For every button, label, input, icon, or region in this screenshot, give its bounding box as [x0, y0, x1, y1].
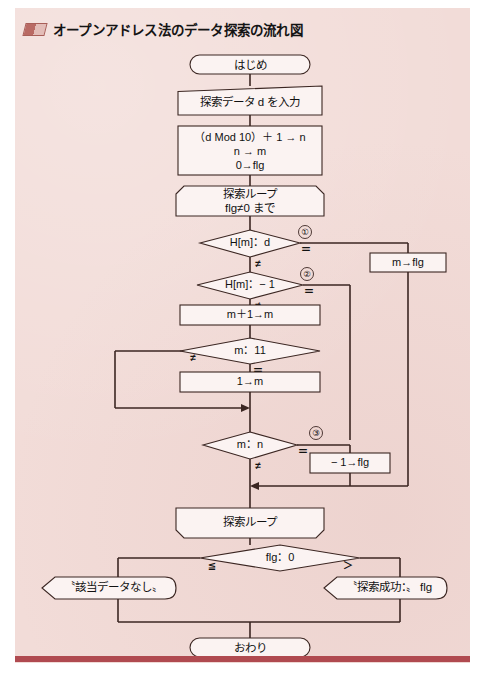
- title-block-icon: [22, 23, 47, 36]
- footer-accent-bar: [15, 656, 470, 662]
- node-set-m-flg-label: m→flg: [392, 256, 424, 268]
- node-cond5[interactable]: flg：0 ≦ ＞: [200, 545, 360, 571]
- node-reset-m[interactable]: 1→m: [180, 372, 320, 392]
- node-cond4[interactable]: m：n ＝ ≠ ③: [203, 427, 323, 471]
- node-cond1-marker: ①: [301, 227, 309, 237]
- node-out-ok[interactable]: 〝探索成功：〟 flg: [324, 577, 447, 599]
- node-set-m-flg[interactable]: m→flg: [370, 253, 446, 272]
- node-cond2-branch-right: ＝: [304, 286, 314, 297]
- node-init-line2: n → m: [234, 145, 266, 157]
- node-cond4-label: m：n: [237, 438, 263, 450]
- node-cond3-branch-left: ≠: [190, 352, 196, 363]
- node-end-label: おわり: [234, 642, 267, 654]
- node-set-neg-flg-label: − 1→flg: [331, 456, 369, 468]
- node-cond2-marker: ②: [303, 269, 311, 279]
- node-cond1-branch-right: ＝: [301, 244, 311, 255]
- node-cond1[interactable]: H[m]：d ＝ ≠ ①: [200, 226, 312, 269]
- node-cond5-branch-right: ＞: [343, 560, 353, 571]
- node-cond4-branch-down: ≠: [255, 460, 261, 471]
- node-out-ok-label: 〝探索成功：〟 flg: [346, 580, 432, 593]
- node-input-d[interactable]: 探索データ d を入力: [178, 86, 322, 115]
- node-reset-m-label: 1→m: [237, 375, 263, 387]
- node-cond2[interactable]: H[m]：− 1 ＝ ≠ ②: [197, 268, 314, 311]
- node-cond3-label: m：11: [234, 344, 266, 356]
- node-init-line1: （d Mod 10）＋ 1 → n: [194, 131, 305, 143]
- node-cond5-label: flg：0: [266, 551, 295, 563]
- node-incr-m[interactable]: m＋1→m: [180, 305, 320, 325]
- node-loop-start-line2: flg≠0 まで: [225, 202, 275, 214]
- node-cond5-branch-left: ≦: [208, 560, 216, 571]
- node-set-neg-flg[interactable]: − 1→flg: [310, 453, 390, 473]
- flowchart-canvas: はじめ 探索データ d を入力 （d Mod 10）＋ 1 → n n → m …: [0, 0, 489, 682]
- node-loop-start[interactable]: 探索ループ flg≠0 まで: [176, 186, 324, 216]
- node-loop-end-label: 探索ループ: [223, 515, 278, 528]
- node-input-d-label: 探索データ d を入力: [200, 95, 301, 108]
- flowchart-page: オープンアドレス法のデータ探索の流れ図: [0, 0, 489, 682]
- node-end[interactable]: おわり: [190, 638, 310, 657]
- node-init[interactable]: （d Mod 10）＋ 1 → n n → m 0→flg: [178, 126, 322, 175]
- page-title-text: オープンアドレス法のデータ探索の流れ図: [53, 19, 303, 39]
- node-out-fail[interactable]: 〝該当データなし〟: [42, 577, 176, 599]
- node-cond4-branch-right: ＝: [298, 446, 308, 457]
- node-start-label: はじめ: [234, 59, 267, 71]
- node-cond4-marker: ③: [312, 428, 320, 438]
- node-loop-end[interactable]: 探索ループ: [176, 508, 324, 538]
- page-title: オープンアドレス法のデータ探索の流れ図: [24, 18, 303, 40]
- node-cond1-branch-down: ≠: [255, 258, 261, 269]
- node-incr-m-label: m＋1→m: [227, 308, 273, 320]
- node-out-fail-label: 〝該当データなし〟: [64, 580, 163, 593]
- node-init-line3: 0→flg: [236, 159, 265, 171]
- node-cond2-label: H[m]：− 1: [225, 278, 275, 290]
- node-cond1-label: H[m]：d: [230, 236, 270, 248]
- node-start[interactable]: はじめ: [190, 55, 310, 74]
- node-loop-start-line1: 探索ループ: [223, 187, 278, 200]
